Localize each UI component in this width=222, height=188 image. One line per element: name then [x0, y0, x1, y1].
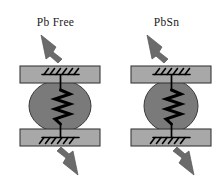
load-arrow-top-pbfree [41, 35, 62, 63]
load-arrow-top-pbsn [147, 35, 168, 63]
assembly-diagram-pbfree [0, 0, 111, 188]
assembly-pbfree [0, 0, 111, 188]
panel-pbfree: Pb Free [0, 0, 111, 188]
panel-pbsn: PbSn [111, 0, 222, 188]
load-arrow-bottom-pbfree [57, 147, 78, 175]
assembly-diagram-pbsn [111, 0, 222, 188]
load-arrow-bottom-pbsn [173, 147, 194, 175]
solder-joint-comparison-figure: Pb Free [0, 0, 222, 188]
assembly-pbsn [111, 0, 222, 188]
